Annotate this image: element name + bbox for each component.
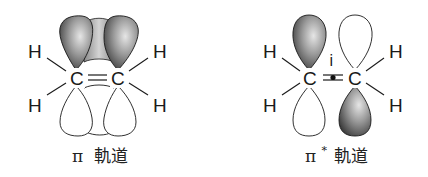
- pi-top-left-lobe: [60, 16, 93, 70]
- bond-h-c: [129, 83, 148, 95]
- caption-superscript: *: [322, 144, 328, 157]
- hydrogen-atom: H: [153, 41, 167, 62]
- bond-h-c: [47, 58, 66, 71]
- pi-orbital-diagram: C C H H H H π 軌道: [28, 16, 167, 166]
- bond-h-c: [366, 58, 384, 71]
- hydrogen-atom: H: [28, 95, 42, 116]
- hydrogen-atom: H: [263, 95, 277, 116]
- hydrogen-atom: H: [153, 95, 167, 116]
- carbon-atom: C: [111, 68, 125, 89]
- caption-text: 軌道: [334, 146, 368, 166]
- hydrogen-atom: H: [389, 41, 403, 62]
- bond-h-c: [366, 83, 384, 95]
- inversion-center-label: i: [330, 52, 334, 69]
- carbon-atom: C: [70, 68, 84, 89]
- bond-h-c: [282, 58, 300, 71]
- bond-h-c: [282, 83, 300, 95]
- inversion-center-dot: [330, 75, 335, 80]
- pi-top-right-lobe: [104, 16, 138, 70]
- hydrogen-atom: H: [389, 95, 403, 116]
- pi-star-orbital-diagram: i C C H H H H π * 軌道: [263, 15, 403, 166]
- carbon-atom: C: [303, 68, 317, 89]
- pi-bottom-left-lobe: [60, 86, 92, 136]
- pi-orbital-caption: π 軌道: [72, 146, 128, 166]
- bond-h-c: [47, 83, 66, 95]
- caption-symbol: π: [72, 146, 83, 166]
- orbital-diagram: C C H H H H π 軌道 i C C: [0, 0, 428, 177]
- hydrogen-atom: H: [263, 41, 277, 62]
- caption-symbol: π: [305, 146, 316, 166]
- pistar-bottom-right-lobe: [339, 86, 371, 136]
- pistar-top-right-lobe: [339, 15, 372, 70]
- pistar-bottom-left-lobe: [293, 86, 325, 136]
- pi-bottom-right-lobe: [104, 86, 136, 136]
- pistar-top-left-lobe: [293, 15, 326, 70]
- caption-text: 軌道: [94, 146, 128, 166]
- hydrogen-atom: H: [28, 41, 42, 62]
- bond-h-c: [129, 58, 148, 71]
- pi-star-orbital-caption: π * 軌道: [305, 138, 368, 166]
- carbon-atom: C: [348, 68, 362, 89]
